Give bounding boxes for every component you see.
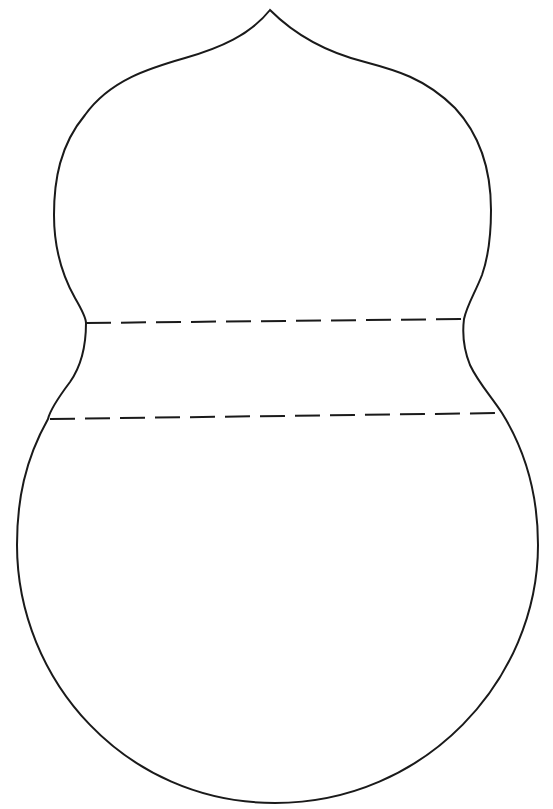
lower-fold-line <box>50 413 502 419</box>
gourd-drawing <box>0 0 553 809</box>
gourd-template-figure: Gourd shape template <box>0 0 553 809</box>
gourd-outline <box>17 10 538 803</box>
upper-fold-line <box>86 319 464 323</box>
